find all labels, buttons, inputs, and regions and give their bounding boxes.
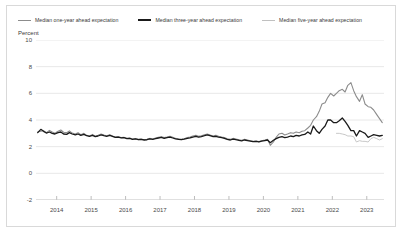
y-tick-label: 10: [25, 37, 32, 43]
inflation-expectations-chart-figure: Median one-year ahead expectation Median…: [0, 0, 402, 237]
data-series-layer: [38, 83, 383, 146]
x-tick-label: 2014: [50, 207, 63, 213]
chart-legend: Median one-year ahead expectation Median…: [18, 14, 390, 26]
gridlines: [36, 40, 384, 200]
legend-label-three-year: Median three-year ahead expectation: [155, 17, 242, 23]
x-tick-label: 2015: [84, 207, 97, 213]
line-swatch-one-year-icon: [18, 20, 31, 21]
x-tick-label: 2019: [222, 207, 235, 213]
y-tick-label: 4: [29, 117, 32, 123]
series-line: [38, 118, 383, 143]
legend-item-three-year: Median three-year ahead expectation: [138, 17, 242, 23]
y-tick-label: 6: [29, 90, 32, 96]
legend-item-one-year: Median one-year ahead expectation: [18, 17, 118, 23]
plot-area: 1086420-2 201420152016201720182019202020…: [36, 40, 384, 200]
x-tick-label: 2017: [153, 207, 166, 213]
x-tick-label: 2016: [119, 207, 132, 213]
x-axis-tickmarks: [36, 196, 384, 200]
y-tick-label: -2: [27, 197, 32, 203]
x-tick-label: 2021: [291, 207, 304, 213]
line-swatch-three-year-icon: [138, 19, 151, 21]
y-tick-label: 0: [29, 170, 32, 176]
chart-canvas: [36, 40, 384, 200]
x-tick-label: 2022: [326, 207, 339, 213]
x-tick-label: 2023: [360, 207, 373, 213]
x-tick-label: 2020: [257, 207, 270, 213]
legend-item-five-year: Median five-year ahead expectation: [262, 17, 362, 23]
y-axis-unit-label: Percent: [18, 29, 39, 37]
legend-label-five-year: Median five-year ahead expectation: [279, 17, 362, 23]
y-tick-label: 2: [29, 144, 32, 150]
y-tick-label: 8: [29, 64, 32, 70]
line-swatch-five-year-icon: [262, 20, 275, 21]
legend-label-one-year: Median one-year ahead expectation: [35, 17, 118, 23]
x-tick-label: 2018: [188, 207, 201, 213]
